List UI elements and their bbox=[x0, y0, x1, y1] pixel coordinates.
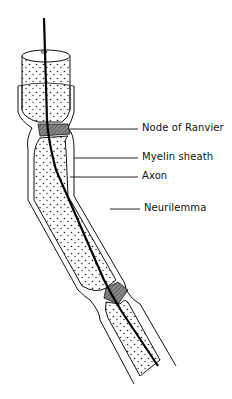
label-neurilemma: Neurilemma bbox=[144, 202, 206, 213]
label-axon: Axon bbox=[142, 170, 167, 181]
label-node-of-ranvier: Node of Ranvier bbox=[142, 122, 224, 133]
nerve-fiber-illustration bbox=[0, 0, 232, 399]
label-myelin-sheath: Myelin sheath bbox=[142, 151, 213, 162]
upper-node-of-ranvier bbox=[38, 124, 70, 136]
lower-myelin-segment bbox=[90, 290, 176, 384]
nerve-fiber-diagram: Node of Ranvier Myelin sheath Axon Neuri… bbox=[0, 0, 232, 399]
